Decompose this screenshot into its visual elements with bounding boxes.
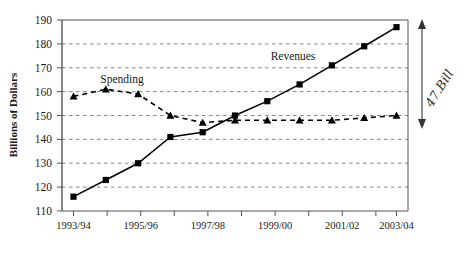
datapoint-revenues-2003-04 [393, 24, 399, 30]
chart-container: 190 180 170 160 150 140 130 120 110 Bill… [0, 0, 475, 257]
xtick-label-1997-98: 1997/98 [191, 220, 225, 231]
ytick-label-140: 140 [35, 133, 53, 145]
ytick-label-190: 190 [35, 14, 53, 26]
ytick-label-150: 150 [35, 110, 53, 122]
xtick-label-2001-02: 2001/02 [325, 220, 359, 231]
xtick-label-1993-94: 1993/94 [56, 220, 91, 231]
datapoint-revenues-1995-96 [135, 160, 141, 166]
revenues-inline-label: Revenues [271, 50, 316, 62]
ytick-label-180: 180 [35, 38, 53, 50]
ytick-label-130: 130 [35, 157, 53, 169]
ytick-label-170: 170 [35, 62, 53, 74]
datapoint-revenues-1999-00 [264, 98, 270, 104]
datapoint-revenues-2002-03 [361, 43, 367, 49]
line-chart-svg: 190 180 170 160 150 140 130 120 110 Bill… [0, 0, 475, 257]
datapoint-revenues-1998-99 [232, 112, 238, 118]
datapoint-revenues-1993-94 [70, 194, 76, 200]
y-axis-title: Billions of Dollars [7, 72, 19, 157]
xtick-label-1995-96: 1995/96 [123, 220, 157, 231]
ytick-label-110: 110 [35, 205, 52, 217]
datapoint-revenues-2001-02 [329, 62, 335, 68]
xtick-label-1999-00: 1999/00 [258, 220, 292, 231]
datapoint-revenues-1996-97 [167, 134, 173, 140]
spending-inline-label: Spending [100, 73, 144, 86]
ytick-label-160: 160 [35, 86, 53, 98]
datapoint-revenues-1997-98 [200, 129, 206, 135]
xtick-label-2003-04: 2003/04 [379, 220, 414, 231]
datapoint-revenues-2000-01 [297, 81, 303, 87]
datapoint-revenues-1994-95 [103, 177, 109, 183]
ytick-label-120: 120 [35, 181, 53, 193]
chart-background [0, 0, 475, 257]
